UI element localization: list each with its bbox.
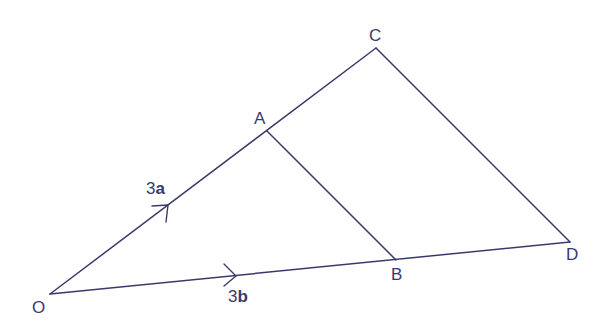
- point-label-c: C: [369, 26, 381, 45]
- segment-cd: [376, 48, 570, 242]
- vector-label-3a: 3a: [146, 179, 165, 198]
- segment-oc: [50, 48, 376, 294]
- point-label-b: B: [391, 265, 402, 284]
- vector-coefficient-b: 3: [228, 287, 237, 306]
- vector-symbol-a: a: [155, 179, 165, 198]
- point-label-o: O: [32, 298, 45, 317]
- vector-coefficient-a: 3: [146, 179, 155, 198]
- segment-od: [50, 242, 570, 294]
- point-label-d: D: [566, 245, 578, 264]
- vector-label-3b: 3b: [228, 287, 248, 306]
- vector-symbol-b: b: [237, 287, 247, 306]
- arrow-ob-icon: [224, 264, 236, 286]
- point-label-a: A: [254, 109, 266, 128]
- vector-diagram: C A B D O 3a 3b: [0, 0, 608, 325]
- segment-ab: [267, 131, 396, 260]
